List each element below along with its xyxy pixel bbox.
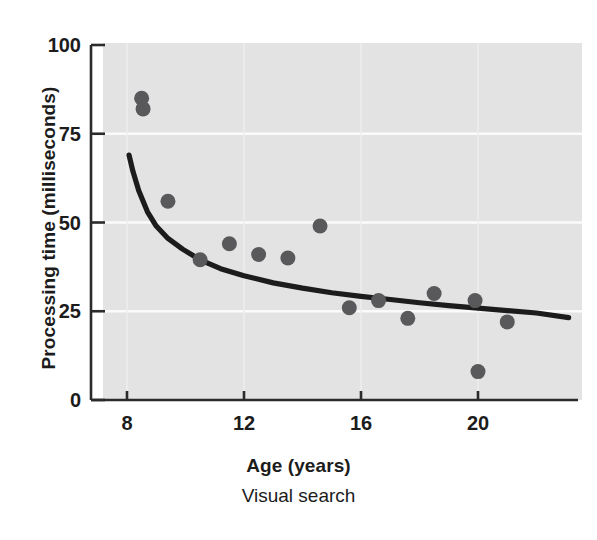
data-point [427,286,442,301]
data-point [251,247,266,262]
x-tick-label: 12 [233,412,255,435]
x-axis-title: Age (years) [0,455,597,477]
chart-subcaption: Visual search [0,485,597,507]
data-point [400,311,415,326]
data-point [222,236,237,251]
x-tick-label: 20 [467,412,489,435]
data-point [280,251,295,266]
data-point [342,300,357,315]
y-tick-label: 75 [0,122,81,145]
data-point [471,364,486,379]
data-point [160,194,175,209]
data-point [500,314,515,329]
x-tick-label: 16 [350,412,372,435]
data-point [371,293,386,308]
data-point [136,101,151,116]
y-tick-label: 25 [0,300,81,323]
y-tick-label: 50 [0,211,81,234]
data-point [468,293,483,308]
data-point [193,252,208,267]
data-point [313,219,328,234]
y-tick-label: 100 [0,34,81,57]
y-tick-label: 0 [0,389,81,412]
chart-figure: Processing time (milliseconds) 025507510… [0,0,597,540]
x-tick-label: 8 [121,412,132,435]
